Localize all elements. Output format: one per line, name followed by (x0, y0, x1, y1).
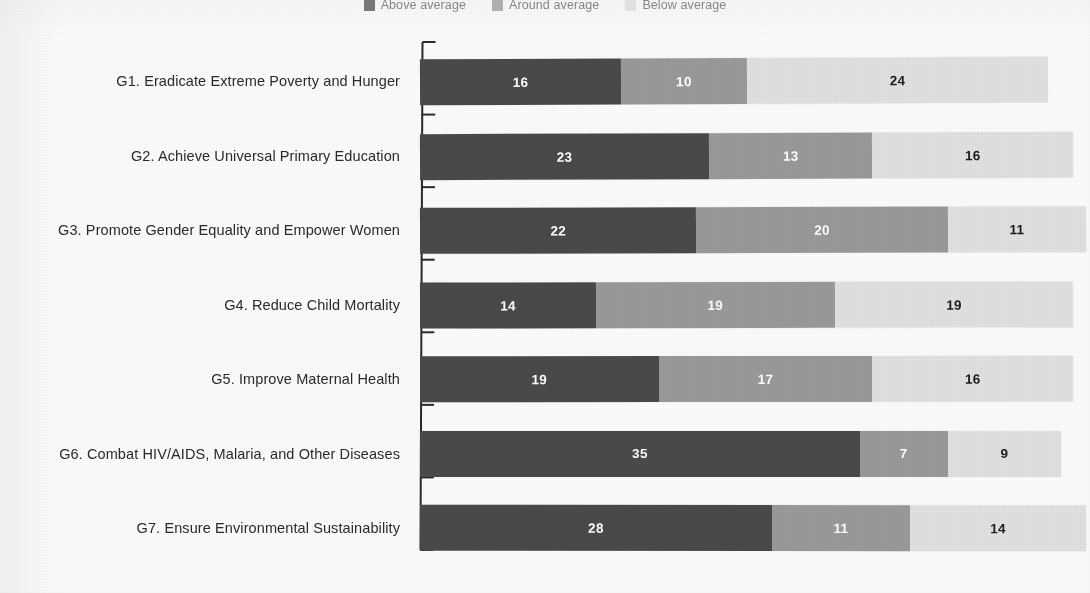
category-label-4: G4. Reduce Child Mortality (0, 282, 400, 328)
bar-value-label: 16 (965, 371, 981, 386)
bar-segment-below-average[interactable]: 24 (747, 57, 1049, 104)
bar-segment-around-average[interactable]: 13 (709, 132, 873, 179)
bar-value-label: 17 (758, 371, 774, 386)
bar-segment-below-average[interactable]: 11 (948, 206, 1086, 252)
bar-value-label: 16 (965, 147, 981, 162)
bar-segment-around-average[interactable]: 7 (860, 431, 948, 477)
bar-row: G6. Combat HIV/AIDS, Malaria, and Other … (0, 431, 1090, 477)
bar-segment-around-average[interactable]: 17 (659, 356, 873, 402)
bar-segment-above-average[interactable]: 14 (420, 282, 596, 328)
bar-value-label: 13 (783, 148, 799, 163)
bar-row: G1. Eradicate Extreme Poverty and Hunger… (0, 58, 1090, 104)
bar-segment-below-average[interactable]: 14 (910, 505, 1086, 551)
stacked-bar[interactable]: 191716 (420, 356, 1073, 403)
bar-row: G2. Achieve Universal Primary Education2… (0, 133, 1090, 179)
stacked-bar[interactable]: 222011 (420, 206, 1086, 254)
stacked-bar[interactable]: 3579 (420, 431, 1061, 477)
stacked-bar[interactable]: 281114 (420, 505, 1086, 552)
bar-value-label: 9 (1000, 446, 1008, 461)
category-label-text: G2. Achieve Universal Primary Education (5, 148, 400, 164)
bar-segment-above-average[interactable]: 28 (420, 505, 772, 551)
bar-value-label: 24 (890, 73, 906, 88)
bar-row: G7. Ensure Environmental Sustainability2… (0, 505, 1090, 551)
bar-segment-below-average[interactable]: 16 (872, 356, 1073, 402)
category-label-7: G7. Ensure Environmental Sustainability (0, 505, 400, 551)
category-label-text: G1. Eradicate Extreme Poverty and Hunger (5, 73, 400, 89)
category-label-text: G5. Improve Maternal Health (5, 371, 400, 387)
category-label-text: G7. Ensure Environmental Sustainability (5, 520, 400, 536)
bar-value-label: 35 (632, 446, 648, 461)
bar-row: G4. Reduce Child Mortality141919 (0, 282, 1090, 328)
category-label-3: G3. Promote Gender Equality and Empower … (0, 207, 400, 253)
bar-value-label: 10 (676, 74, 692, 89)
bar-segment-above-average[interactable]: 19 (420, 356, 659, 402)
plot-area: G1. Eradicate Extreme Poverty and Hunger… (0, 0, 1090, 593)
bar-segment-around-average[interactable]: 19 (596, 281, 835, 327)
stacked-bar[interactable]: 161024 (420, 57, 1048, 106)
bar-value-label: 20 (814, 222, 830, 237)
bar-segment-below-average[interactable]: 16 (872, 131, 1073, 178)
bar-value-label: 7 (900, 446, 908, 461)
bar-segment-above-average[interactable]: 22 (420, 207, 697, 254)
stacked-bar[interactable]: 231316 (420, 131, 1074, 179)
bar-value-label: 14 (500, 297, 516, 312)
category-label-text: G3. Promote Gender Equality and Empower … (5, 222, 400, 238)
stacked-bar[interactable]: 141919 (420, 281, 1074, 328)
bar-row: G5. Improve Maternal Health191716 (0, 356, 1090, 402)
bar-value-label: 11 (1009, 222, 1024, 237)
bar-value-label: 19 (946, 297, 962, 312)
bar-value-label: 22 (550, 223, 566, 238)
bar-segment-around-average[interactable]: 20 (696, 206, 947, 253)
bar-value-label: 11 (834, 521, 849, 536)
bar-segment-above-average[interactable]: 16 (420, 58, 621, 105)
bar-value-label: 14 (990, 521, 1006, 536)
category-label-5: G5. Improve Maternal Health (0, 356, 400, 402)
category-label-text: G4. Reduce Child Mortality (5, 297, 400, 313)
bar-value-label: 23 (557, 149, 573, 164)
bar-value-label: 16 (513, 74, 529, 89)
bar-row: G3. Promote Gender Equality and Empower … (0, 207, 1090, 253)
category-label-1: G1. Eradicate Extreme Poverty and Hunger (0, 58, 400, 104)
bar-value-label: 19 (532, 372, 548, 387)
chart-page: Above average Around average Below avera… (0, 0, 1090, 593)
bar-segment-around-average[interactable]: 11 (772, 505, 910, 551)
bar-segment-above-average[interactable]: 35 (420, 431, 860, 477)
category-label-text: G6. Combat HIV/AIDS, Malaria, and Other … (5, 446, 400, 462)
bar-value-label: 28 (588, 520, 604, 535)
category-label-6: G6. Combat HIV/AIDS, Malaria, and Other … (0, 431, 400, 477)
bar-segment-above-average[interactable]: 23 (420, 133, 709, 180)
bar-segment-around-average[interactable]: 10 (621, 58, 747, 105)
category-label-2: G2. Achieve Universal Primary Education (0, 133, 400, 179)
bar-value-label: 19 (707, 297, 723, 312)
bar-segment-below-average[interactable]: 19 (835, 281, 1074, 327)
bar-segment-below-average[interactable]: 9 (948, 431, 1061, 477)
